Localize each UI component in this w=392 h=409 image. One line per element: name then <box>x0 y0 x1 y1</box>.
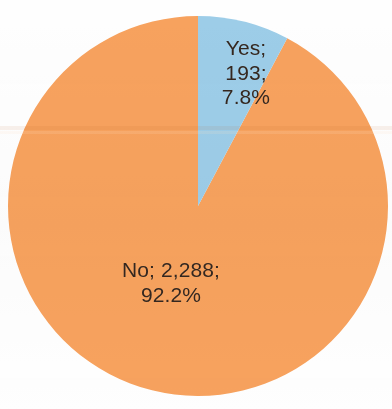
pie-chart-canvas <box>0 0 392 409</box>
pie-slice-label-yes: Yes; 193; 7.8% <box>198 36 294 110</box>
pie-chart: Yes; 193; 7.8% No; 2,288; 92.2% <box>0 0 392 409</box>
pie-slice-label-no: No; 2,288; 92.2% <box>98 258 244 307</box>
